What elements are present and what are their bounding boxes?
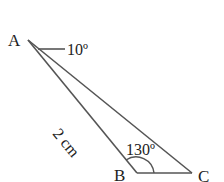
vertex-b-label: B: [114, 166, 125, 182]
vertex-a-label: A: [8, 31, 21, 50]
side-ab-label: 2 cm: [50, 125, 84, 161]
triangle-diagram: A 10º 2 cm 130º B C: [0, 0, 224, 182]
vertex-c-label: C: [198, 167, 209, 182]
angle-a-label: 10º: [67, 41, 88, 58]
side-ac: [28, 40, 192, 173]
angle-b-label: 130º: [126, 141, 155, 158]
side-ab: [28, 40, 137, 173]
